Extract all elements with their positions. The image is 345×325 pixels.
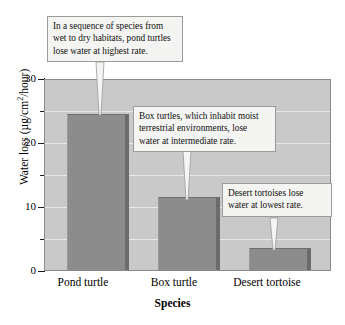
chart-figure: Water loss (µg/cm2/hour) 30 20 10 0 Pond… <box>0 0 345 325</box>
x-axis-label-box-turtle: Box turtle <box>128 276 220 288</box>
bar-box-turtle <box>158 197 220 270</box>
bar-desert-tortoise <box>249 248 311 270</box>
bar-shade-pond-turtle <box>125 115 129 270</box>
bar-shade-desert-tortoise <box>307 249 311 270</box>
pond-turtle-callout: In a sequence of species from wet to dry… <box>47 16 183 62</box>
x-axis-label-desert-tortoise: Desert tortoise <box>219 276 315 288</box>
desert-tortoise-callout: Desert tortoises lose water at lowest ra… <box>222 183 332 217</box>
y-axis-label-0: 0 <box>0 265 36 276</box>
y-axis-label-20: 20 <box>0 137 36 148</box>
bar-shade-box-turtle <box>216 198 220 270</box>
x-axis-title: Species <box>0 297 345 309</box>
y-tick-0 <box>38 271 44 272</box>
x-axis-label-pond-turtle: Pond turtle <box>37 276 129 288</box>
y-axis-label-10: 10 <box>0 201 36 212</box>
y-axis-title: Water loss (µg/cm2/hour) <box>16 32 30 222</box>
y-axis-title-superscript: 2 <box>16 97 25 101</box>
y-axis-label-30: 30 <box>0 73 36 84</box>
box-turtle-callout: Box turtles, which inhabit moist terrest… <box>133 106 276 152</box>
bar-pond-turtle <box>67 114 129 270</box>
